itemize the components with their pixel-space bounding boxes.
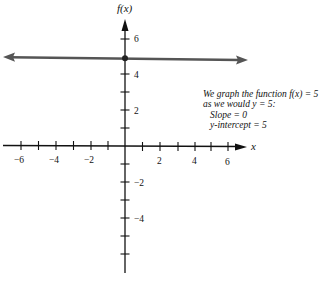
y-axis-label: f(x) (117, 2, 133, 15)
note-line-2: as we would y = 5: (203, 99, 318, 109)
x-axis-label: x (250, 140, 256, 152)
y-tick-label-4: 4 (134, 70, 139, 80)
y-tick-label-neg4: −4 (134, 214, 144, 224)
note-line-1: We graph the function f(x) = 5 (203, 89, 318, 99)
y-axis: 6 4 2 −2 −4 f(x) (117, 2, 144, 273)
x-tick-label-neg2: −2 (84, 155, 94, 165)
x-tick-label-6: 6 (225, 157, 230, 167)
y-tick-label-neg2: −2 (134, 178, 144, 188)
x-tick-label-4: 4 (192, 156, 197, 166)
y-tick-label-6: 6 (134, 34, 139, 44)
note-slope: Slope = 0 (203, 110, 318, 120)
y-intercept-point (122, 55, 128, 61)
x-axis-arrow-icon (235, 144, 247, 151)
note-y-intercept: y-intercept = 5 (203, 120, 318, 130)
x-tick-label-2: 2 (157, 156, 162, 166)
function-graph: 6 4 2 −2 −4 f(x) −6 −4 −2 2 4 6 x (0, 0, 320, 291)
y-axis-arrow-icon (122, 19, 129, 31)
x-tick-label-neg4: −4 (49, 155, 59, 165)
x-tick-label-neg6: −6 (14, 155, 24, 165)
annotation-note: We graph the function f(x) = 5 as we wou… (203, 89, 318, 131)
y-tick-label-2: 2 (134, 106, 139, 116)
x-axis: −6 −4 −2 2 4 6 x (3, 140, 256, 167)
